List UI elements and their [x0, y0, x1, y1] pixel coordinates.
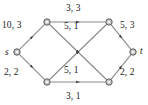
edge-bottom-left-to-top-right-label: 5, 1 [64, 66, 79, 76]
sink-label: t [140, 47, 143, 57]
edge-top-left-to-top-right-label: 3, 3 [66, 4, 81, 14]
edge-bottom-left-to-bottom-right-arrowhead-icon [76, 81, 80, 84]
top-right-node-center-dot-icon [108, 21, 110, 23]
flow-network-figure: 10, 32, 23, 35, 15, 13, 15, 32, 2 st [0, 0, 148, 105]
edge-bottom-right-to-t-label: 2, 2 [120, 68, 135, 78]
edge-s-to-top-left-label: 10, 3 [2, 21, 22, 31]
sink-node-center-dot-icon [132, 51, 134, 53]
source-label: s [5, 48, 9, 58]
edge-top-left-to-bottom-right-label: 5, 1 [64, 22, 79, 32]
bottom-left-node-center-dot-icon [46, 81, 48, 83]
top-left-node-center-dot-icon [46, 21, 48, 23]
source-node-center-dot-icon [16, 51, 18, 53]
bottom-right-node-center-dot-icon [108, 81, 110, 83]
edge-top-right-to-t-label: 5, 3 [120, 21, 135, 31]
graph-canvas [0, 0, 148, 105]
edge-bottom-left-to-bottom-right-label: 3, 1 [66, 92, 81, 102]
edge-s-to-bottom-left-label: 2, 2 [4, 68, 19, 78]
